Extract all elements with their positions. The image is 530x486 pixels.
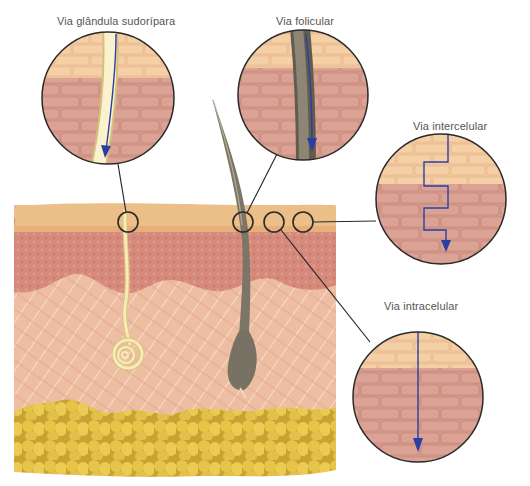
label-follicular: Via folicular [276, 15, 334, 27]
skin-diagram: Via glândula sudorípara Via folicular Vi… [0, 0, 530, 486]
label-sweat-gland: Via glândula sudorípara [57, 15, 175, 27]
callout-follicular [236, 28, 376, 168]
label-intracellular: Via intracelular [384, 300, 458, 312]
callout-intercellular [374, 132, 514, 269]
callout-intracellular [350, 330, 490, 468]
label-intercellular: Via intercelular [413, 120, 487, 132]
skin-cross-section [0, 0, 530, 486]
stratum-corneum-layer [14, 203, 336, 232]
callout-sweat-gland [40, 30, 180, 170]
